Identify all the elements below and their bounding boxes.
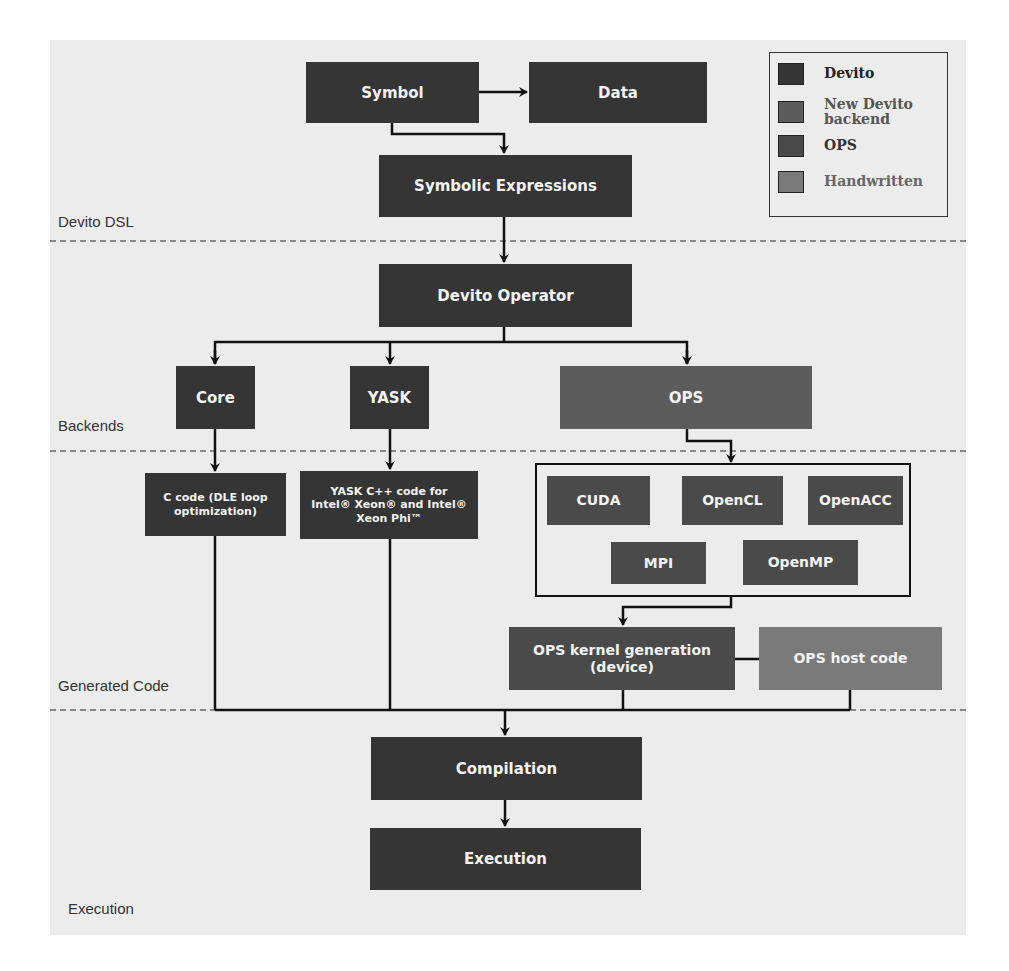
legend-label-devito: Devito <box>824 66 874 81</box>
legend-swatch-devito <box>778 63 804 85</box>
legend-swatch-new-backend <box>778 101 804 123</box>
node-devito-operator-label: Devito Operator <box>437 287 573 305</box>
legend-label-ops: OPS <box>824 138 857 153</box>
node-cuda: CUDA <box>547 476 650 525</box>
node-compilation: Compilation <box>371 737 642 800</box>
legend-swatch-handwritten <box>778 171 804 193</box>
node-c-code-label: C code (DLE loop optimization) <box>153 491 278 517</box>
node-symbol-label: Symbol <box>361 84 423 102</box>
node-core: Core <box>176 366 255 429</box>
legend-swatch-ops <box>778 135 804 157</box>
node-openmp-label: OpenMP <box>768 554 834 571</box>
node-mpi-label: MPI <box>644 555 673 572</box>
node-ops-host-label: OPS host code <box>793 650 907 667</box>
node-symbolic-expressions: Symbolic Expressions <box>379 155 632 217</box>
node-data-label: Data <box>598 84 638 102</box>
legend-label-new-backend: New Devito backend <box>824 97 924 128</box>
legend-item-devito: Devito <box>778 63 874 85</box>
node-compilation-label: Compilation <box>456 760 557 778</box>
node-ops-kernel-generation: OPS kernel generation (device) <box>509 627 735 690</box>
node-ops-host-code: OPS host code <box>759 627 942 690</box>
node-data: Data <box>529 62 707 123</box>
node-devito-operator: Devito Operator <box>379 264 632 327</box>
node-openacc: OpenACC <box>808 476 903 525</box>
node-yask: YASK <box>350 366 429 429</box>
node-yask-code-label: YASK C++ code for Intel® Xeon® and Intel… <box>310 485 468 525</box>
node-core-label: Core <box>196 389 235 407</box>
node-yask-label: YASK <box>368 389 411 407</box>
node-openacc-label: OpenACC <box>819 492 892 509</box>
node-symbolic-expressions-label: Symbolic Expressions <box>414 177 597 195</box>
node-mpi: MPI <box>611 542 706 584</box>
legend-item-new-backend: New Devito backend <box>778 97 924 128</box>
node-c-code: C code (DLE loop optimization) <box>145 473 286 536</box>
node-execution-label: Execution <box>464 850 547 868</box>
node-ops-kernel-label: OPS kernel generation (device) <box>523 642 721 676</box>
legend: Devito New Devito backend OPS Handwritte… <box>769 52 948 217</box>
node-ops-label: OPS <box>669 389 704 407</box>
node-execution: Execution <box>370 828 641 890</box>
node-ops-backend: OPS <box>560 366 812 429</box>
node-opencl-label: OpenCL <box>702 492 763 509</box>
node-cuda-label: CUDA <box>576 492 620 509</box>
legend-item-handwritten: Handwritten <box>778 171 923 193</box>
legend-label-handwritten: Handwritten <box>824 174 923 189</box>
node-openmp: OpenMP <box>743 540 858 585</box>
legend-item-ops: OPS <box>778 135 857 157</box>
node-symbol: Symbol <box>306 62 479 123</box>
node-yask-code: YASK C++ code for Intel® Xeon® and Intel… <box>300 471 478 539</box>
node-opencl: OpenCL <box>682 476 783 525</box>
